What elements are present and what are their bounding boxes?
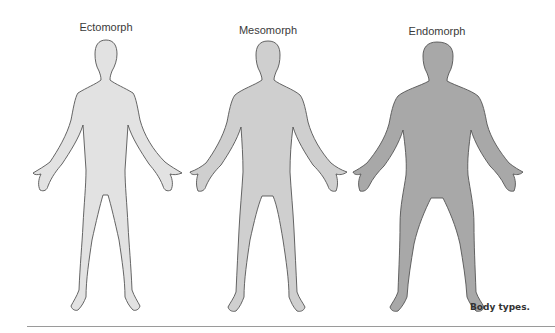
mesomorph-silhouette — [190, 41, 347, 311]
figure-caption: Body types. — [470, 302, 530, 312]
endomorph-silhouette — [353, 42, 523, 311]
bottom-divider — [27, 326, 555, 327]
mesomorph-figure — [190, 41, 347, 311]
body-figures — [0, 0, 555, 333]
ectomorph-silhouette — [33, 40, 182, 310]
endomorph-figure — [353, 42, 523, 311]
ectomorph-figure — [33, 40, 182, 310]
